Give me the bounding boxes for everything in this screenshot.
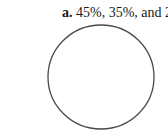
- circle-outline: [48, 25, 154, 129]
- empty-pie-circle: [0, 0, 168, 135]
